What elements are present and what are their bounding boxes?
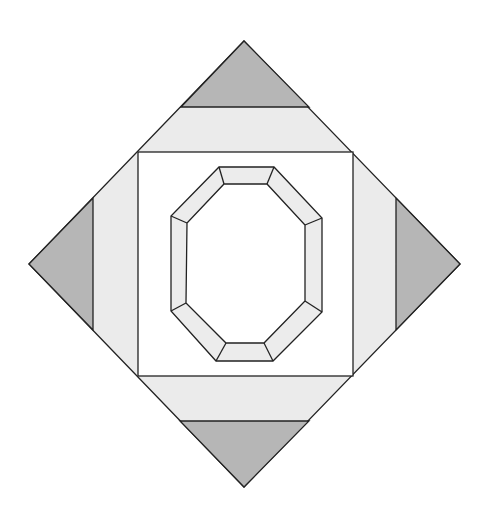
quilt-block-diagram: [0, 0, 491, 518]
corner-triangle-bottom: [180, 421, 309, 487]
corner-triangle-top: [181, 41, 309, 107]
corner-triangle-right: [396, 198, 460, 330]
octagon-center: [186, 184, 305, 343]
corner-triangle-left: [29, 198, 93, 330]
